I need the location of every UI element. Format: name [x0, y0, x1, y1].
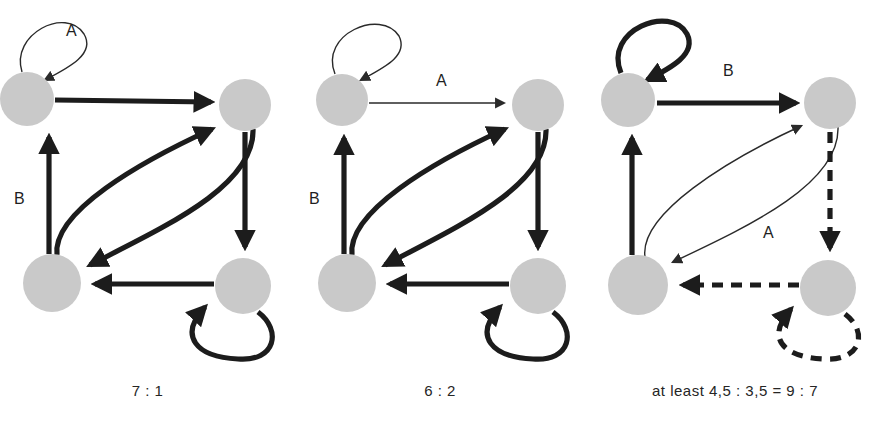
edge-label-b: B [723, 62, 734, 79]
edge-n1-n2 [55, 100, 211, 102]
graph-panel-1: A B 7 : 1 [0, 0, 295, 435]
graph-1-caption: 7 : 1 [0, 382, 295, 399]
node-n3[interactable] [608, 255, 668, 315]
graph-2-svg: A B [295, 0, 585, 375]
node-n1[interactable] [0, 72, 54, 126]
edge-selfloop-n1 [618, 21, 689, 80]
edge-label-b: B [14, 190, 25, 207]
graph-3-caption: at least 4,5 : 3,5 = 9 : 7 [585, 382, 885, 399]
graph-3-svg: B A [585, 0, 885, 375]
edge-selfloop-n4-dashed [779, 309, 859, 359]
edge-label-b: B [309, 190, 320, 207]
edge-label-a: A [436, 72, 447, 89]
edge-selfloop-n4 [487, 307, 567, 359]
node-n4[interactable] [800, 260, 856, 316]
edge-label-a: A [66, 22, 77, 39]
edge-selfloop-n1 [332, 24, 401, 80]
node-n2[interactable] [219, 79, 271, 131]
edge-n3-n2-curve [57, 129, 212, 255]
edge-n3-n2-curve [352, 129, 505, 255]
edge-label-a: A [763, 224, 774, 241]
node-n4[interactable] [215, 258, 271, 314]
diagram-canvas: A B 7 : 1 [0, 0, 885, 435]
graph-2-caption: 6 : 2 [295, 382, 585, 399]
edge-selfloop-n4 [192, 307, 272, 359]
node-n1[interactable] [316, 74, 368, 126]
node-n3[interactable] [23, 254, 81, 312]
edge-selfloop-n1 [20, 23, 87, 80]
node-n1[interactable] [601, 73, 655, 127]
edge-n2-n3-curve [673, 127, 838, 262]
node-n2[interactable] [512, 79, 564, 131]
graph-1-svg: A B [0, 0, 295, 375]
graph-panel-3: B A at least 4,5 : 3,5 = 9 : 7 [585, 0, 885, 435]
node-n4[interactable] [510, 258, 566, 314]
graph-panel-2: A B 6 : 2 [295, 0, 585, 435]
node-n2[interactable] [804, 77, 856, 129]
node-n3[interactable] [318, 254, 376, 312]
